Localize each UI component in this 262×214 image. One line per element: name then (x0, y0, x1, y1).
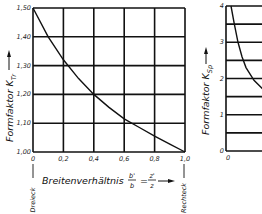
x-tick-label: 0,4 (89, 155, 99, 163)
y-tick-label: 3 (220, 38, 224, 46)
chart-canvas: 1,001,101,201,301,401,50 00,20,40,60,81,… (0, 0, 262, 214)
y-tick-label: 1,30 (17, 62, 31, 70)
chart1-x-ticks: 00,20,40,60,81,0 (31, 155, 190, 163)
x-tick-label: 1,0 (180, 155, 190, 163)
chart1-x-axis-label: Breitenverhältnis b' b = z' z (42, 172, 156, 190)
svg-text:Breitenverhältnis: Breitenverhältnis (42, 175, 124, 186)
y-tick-label: 1,50 (17, 4, 31, 12)
y-tick-label: 1,40 (17, 33, 31, 41)
chart1-curve (33, 8, 185, 152)
svg-text:z: z (149, 182, 154, 190)
x-tick-label: 0,2 (58, 155, 68, 163)
y-tick-label: 1,00 (17, 148, 31, 156)
chart1-grid (33, 8, 185, 152)
svg-text:Rechteck: Rechteck (180, 183, 188, 213)
chart1-y-arrow-icon (7, 50, 11, 70)
y-tick-label: 1 (220, 111, 224, 119)
svg-text:z': z' (148, 172, 154, 180)
chart2-y-ticks: 01234 (220, 2, 224, 155)
svg-text:b': b' (129, 172, 135, 180)
y-tick-label: 0 (220, 147, 224, 155)
svg-text:=: = (140, 175, 148, 186)
svg-text:b: b (130, 182, 134, 190)
svg-text:Formfaktor KSp: Formfaktor KSp (200, 65, 214, 135)
dreieck-note: Dreieck (29, 187, 37, 212)
x-tick-label: 0 (226, 154, 230, 162)
x-tick-label: 0,6 (119, 155, 129, 163)
x-tick-label: 0,8 (149, 155, 159, 163)
chart2-grid (226, 6, 262, 151)
chart1-x-arrow-icon (158, 179, 175, 183)
chart2-curve (231, 6, 262, 100)
chart2-x-ticks: 02 (226, 154, 262, 162)
chart2-y-axis-label: Formfaktor KSp (200, 65, 214, 135)
rechteck-note: Rechteck (180, 183, 188, 213)
svg-text:Formfaktor KTr: Formfaktor KTr (4, 73, 18, 142)
y-tick-label: 1,10 (17, 119, 31, 127)
y-tick-label: 1,20 (17, 90, 31, 98)
y-tick-label: 2 (220, 75, 224, 83)
chart2-y-arrow-icon (204, 47, 208, 64)
x-tick-label: 0 (31, 155, 35, 163)
svg-text:Dreieck: Dreieck (29, 187, 37, 212)
chart1-y-ticks: 1,001,101,201,301,401,50 (17, 4, 31, 156)
chart1-y-axis-label: Formfaktor KTr (4, 73, 18, 142)
y-tick-label: 4 (220, 2, 224, 10)
